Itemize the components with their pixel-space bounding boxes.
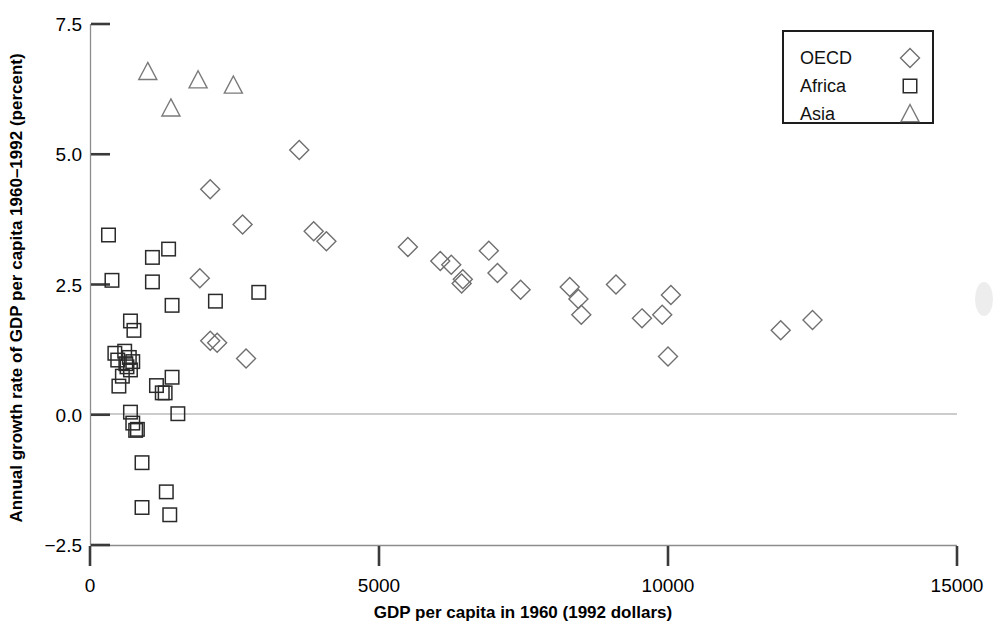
data-point-oecd (190, 269, 209, 288)
x-axis-title: GDP per capita in 1960 (1992 dollars) (374, 603, 672, 622)
y-tick-label: −2.5 (44, 535, 82, 556)
data-point-africa (102, 228, 116, 242)
data-point-africa (165, 299, 179, 313)
data-point-asia (162, 99, 180, 116)
data-point-africa (165, 370, 179, 384)
legend: OECDAfricaAsia (783, 31, 933, 124)
y-axis-tick-labels: −2.50.02.55.07.5 (44, 14, 82, 556)
data-point-oecd (771, 321, 790, 340)
legend-label-asia: Asia (800, 104, 836, 124)
data-point-africa (135, 501, 149, 515)
data-point-africa (163, 508, 177, 521)
legend-label-africa: Africa (800, 76, 847, 96)
data-point-asia (224, 76, 242, 93)
data-point-oecd (511, 280, 530, 299)
data-point-oecd (233, 215, 252, 234)
data-point-oecd (653, 305, 672, 324)
series-africa (102, 228, 266, 521)
x-tick-label: 15000 (931, 575, 984, 596)
data-point-asia (139, 62, 157, 79)
data-point-oecd (479, 241, 498, 260)
data-point-oecd (560, 278, 579, 297)
data-point-oecd (661, 285, 680, 304)
data-point-oecd (803, 310, 822, 329)
y-axis-title: Annual growth rate of GDP per capita 196… (7, 53, 26, 522)
series-oecd (190, 141, 822, 368)
data-point-africa (252, 286, 266, 300)
scatter-chart: −2.50.02.55.07.5 050001000015000 GDP per… (0, 0, 998, 634)
data-point-oecd (632, 309, 651, 328)
y-tick-label: 5.0 (56, 144, 82, 165)
y-tick-label: 7.5 (56, 14, 82, 35)
data-point-oecd (398, 237, 417, 256)
data-point-africa (146, 251, 160, 265)
data-point-oecd (442, 255, 461, 274)
data-point-oecd (488, 264, 507, 283)
y-tick-label: 0.0 (56, 405, 82, 426)
data-point-africa (162, 242, 176, 256)
data-point-oecd (572, 305, 591, 324)
x-axis-ticks (90, 546, 957, 566)
data-point-africa (209, 294, 223, 308)
data-point-africa (135, 456, 149, 470)
data-points-layer (102, 62, 822, 521)
x-tick-label: 5000 (358, 575, 400, 596)
data-point-africa (112, 379, 126, 393)
data-point-oecd (569, 290, 588, 309)
data-point-africa (160, 485, 174, 499)
legend-label-oecd: OECD (800, 48, 852, 68)
data-point-africa (146, 275, 160, 289)
y-tick-label: 2.5 (56, 275, 82, 296)
x-tick-label: 10000 (642, 575, 695, 596)
series-asia (139, 62, 243, 116)
y-axis-ticks (91, 24, 110, 545)
data-point-oecd (201, 180, 220, 199)
data-point-oecd (659, 347, 678, 366)
data-point-oecd (290, 141, 309, 160)
data-point-asia (189, 71, 207, 88)
x-tick-label: 0 (85, 575, 96, 596)
scan-artifact (975, 282, 993, 316)
data-point-africa (124, 314, 137, 328)
chart-canvas: −2.50.02.55.07.5 050001000015000 GDP per… (0, 0, 998, 634)
x-axis-tick-labels: 050001000015000 (85, 575, 984, 596)
data-point-oecd (606, 275, 625, 294)
data-point-africa (127, 324, 141, 338)
data-point-oecd (431, 252, 450, 271)
data-point-oecd (237, 349, 256, 368)
